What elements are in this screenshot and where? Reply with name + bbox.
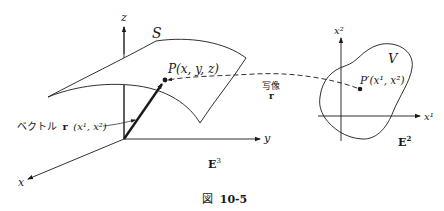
figure-caption: 図 10-5 [202, 193, 247, 206]
region-label: V [388, 51, 399, 66]
e2-label: E2 [398, 134, 411, 149]
vector-symbol: r [63, 121, 69, 132]
point-p-prime [358, 87, 363, 92]
e3-label: E3 [208, 157, 221, 171]
position-vector-r [124, 84, 162, 139]
surface-s [48, 39, 246, 123]
vector-leader-line [103, 120, 135, 126]
e2-axes [318, 38, 420, 141]
x1-axis-label: x¹ [424, 111, 434, 122]
vector-label-jp: ベクトル [17, 121, 57, 132]
point-p-prime-label: P′(x¹, x²) [359, 74, 405, 86]
z-axis-label: z [120, 11, 127, 24]
surface-label: S [152, 25, 162, 41]
mapping-symbol: r [269, 91, 274, 101]
diagram-canvas: z y x S P(x, y, z) ベクトル r (x¹, x²) E3 写像… [0, 0, 444, 211]
vector-label: ベクトル r (x¹, x²) [17, 121, 107, 132]
x-axis-label: x [18, 176, 25, 189]
region-v [320, 44, 413, 139]
y-axis-label: y [263, 132, 271, 145]
vector-args: (x¹, x²) [73, 121, 107, 132]
point-p-label: P(x, y, z) [167, 62, 219, 76]
x-axis [28, 139, 124, 179]
x2-axis-label: x² [334, 25, 344, 36]
mapping-label-jp: 写像 [262, 80, 280, 91]
point-p [163, 78, 168, 83]
